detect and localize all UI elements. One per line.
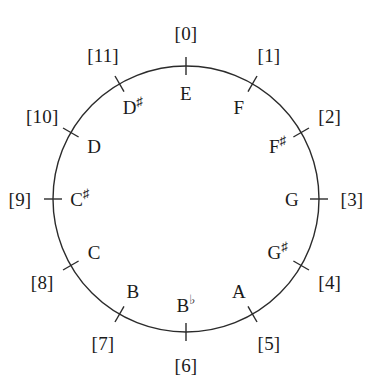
tick-mark-4 [293, 261, 309, 270]
tick-mark-8 [63, 261, 79, 270]
note-letter: D [123, 97, 137, 118]
index-label-7: [7] [92, 333, 115, 352]
flat-icon: ♭ [189, 291, 195, 306]
index-label-9: [9] [9, 190, 32, 209]
tick-mark-11 [115, 76, 124, 92]
note-letter: B [176, 295, 189, 316]
note-letter: E [180, 83, 192, 104]
tick-mark-1 [248, 76, 257, 92]
note-label-5: A [232, 281, 246, 300]
note-label-8: C [88, 243, 101, 262]
note-label-6: B♭ [176, 296, 195, 315]
note-letter: B [127, 280, 140, 301]
index-label-6: [6] [175, 356, 198, 375]
index-label-11: [11] [87, 46, 119, 65]
sharp-icon: ♯ [137, 93, 144, 108]
sharp-icon: ♯ [83, 185, 90, 200]
pitch-class-circle-diagram: EFF♯GG♯AB♭BCC♯DD♯ [0][1][2][3][4][5][6][… [0, 0, 374, 389]
tick-mark-7 [115, 306, 124, 322]
tick-mark-2 [293, 128, 309, 137]
index-label-1: [1] [258, 46, 281, 65]
note-letter: F [269, 136, 280, 157]
note-label-10: D [87, 137, 101, 156]
tick-mark-5 [248, 306, 257, 322]
note-label-2: F♯ [269, 137, 286, 156]
note-letter: A [232, 280, 246, 301]
note-label-1: F [234, 98, 245, 117]
note-label-11: D♯ [123, 98, 144, 117]
note-letter: G [285, 189, 299, 210]
index-label-5: [5] [258, 333, 281, 352]
note-letter: F [234, 97, 245, 118]
sharp-icon: ♯ [281, 238, 288, 253]
circle-graphic [0, 0, 374, 389]
pitch-circle-outline [53, 66, 319, 332]
note-letter: D [87, 136, 101, 157]
note-letter: C [88, 242, 101, 263]
index-label-0: [0] [175, 24, 198, 43]
index-label-3: [3] [341, 190, 364, 209]
note-label-3: G [285, 190, 299, 209]
note-letter: C [70, 189, 83, 210]
tick-mark-10 [63, 128, 79, 137]
note-label-7: B [127, 281, 140, 300]
note-letter: G [267, 242, 281, 263]
note-label-0: E [180, 84, 192, 103]
index-label-10: [10] [26, 107, 58, 126]
index-label-8: [8] [31, 273, 54, 292]
index-label-2: [2] [318, 107, 341, 126]
note-label-4: G♯ [267, 243, 288, 262]
note-label-9: C♯ [70, 190, 90, 209]
index-label-4: [4] [318, 273, 341, 292]
sharp-icon: ♯ [280, 132, 287, 147]
